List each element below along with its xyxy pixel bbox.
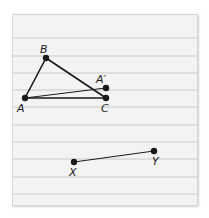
- segments: [25, 58, 154, 162]
- point-x: [71, 159, 77, 165]
- ruled-lines: [13, 38, 197, 194]
- label-y: Y: [152, 155, 160, 168]
- label-c: C: [101, 102, 109, 115]
- label-x: X: [68, 166, 77, 179]
- point-c: [103, 95, 109, 101]
- segment-x-y: [74, 151, 154, 162]
- label-b: B: [40, 43, 48, 56]
- label-a-prime: A′: [95, 73, 107, 86]
- points: [22, 55, 157, 165]
- point-y: [151, 148, 157, 154]
- segment-a-b: [25, 58, 46, 98]
- label-a: A: [16, 102, 25, 115]
- point-a: [22, 95, 28, 101]
- geometry-figure: A B C A′ X Y: [0, 0, 209, 218]
